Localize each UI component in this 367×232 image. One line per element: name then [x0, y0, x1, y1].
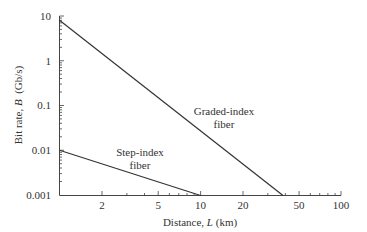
x-tick-labels: 2 5 10 20 50 100 — [99, 199, 350, 211]
svg-text:10: 10 — [195, 199, 207, 211]
svg-text:fiber: fiber — [130, 159, 151, 171]
svg-text:50: 50 — [294, 199, 306, 211]
svg-text:0.01: 0.01 — [32, 144, 51, 156]
svg-text:10: 10 — [40, 10, 52, 22]
svg-text:100: 100 — [333, 199, 350, 211]
svg-text:1: 1 — [46, 55, 52, 67]
svg-text:fiber: fiber — [214, 118, 235, 130]
svg-text:5: 5 — [155, 199, 161, 211]
svg-text:0.001: 0.001 — [26, 189, 51, 201]
svg-text:Step-index: Step-index — [116, 146, 164, 158]
y-ticks — [60, 16, 65, 182]
svg-text:20: 20 — [238, 199, 250, 211]
svg-text:Graded-index: Graded-index — [194, 105, 255, 117]
step-index-annotation: Step-index fiber — [116, 146, 164, 171]
svg-text:2: 2 — [99, 199, 105, 211]
x-ticks — [102, 191, 341, 196]
y-tick-labels: 10 1 0.1 0.01 0.001 — [26, 10, 51, 201]
y-axis-title: Bit rate, B (Gb/s) — [12, 65, 25, 144]
x-axis-title: Distance, L (km) — [163, 216, 238, 229]
chart: 10 1 0.1 0.01 0.001 2 5 10 20 50 100 Dis… — [0, 0, 367, 232]
graded-index-annotation: Graded-index fiber — [194, 105, 255, 130]
svg-text:0.1: 0.1 — [37, 99, 51, 111]
